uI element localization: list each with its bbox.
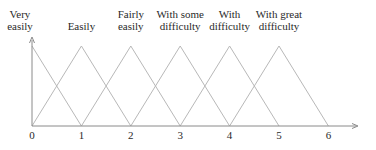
set-label-line2: easily [118,20,144,32]
set-label: Veryeasily [7,8,33,32]
membership-curves [32,46,328,126]
set-label: Easily [68,20,96,32]
set-label: With greatdifficulty [256,8,302,32]
set-label-line2: Easily [68,20,96,32]
set-label-line2: easily [7,20,33,32]
set-label: Fairlyeasily [118,8,144,32]
set-label-line1: Fairly [118,8,144,20]
set-label-line2: difficulty [209,20,250,32]
x-tick-label: 0 [29,129,35,141]
set-label: With somedifficulty [156,8,204,32]
x-tick-label: 3 [177,129,183,141]
x-tick-label: 4 [227,129,233,141]
membership-triangle [32,46,131,126]
set-label: Withdifficulty [209,8,250,32]
membership-triangle [131,46,230,126]
set-label-line1: With some [156,8,204,20]
membership-triangle [230,46,329,126]
set-label-line2: difficulty [156,20,204,32]
x-tick-label: 2 [128,129,134,141]
set-label-line1: With [209,8,250,20]
set-label-line2: difficulty [256,20,302,32]
membership-triangle [180,46,279,126]
membership-triangle [81,46,180,126]
set-label-line1: With great [256,8,302,20]
x-tick-label: 6 [326,129,332,141]
x-tick-label: 1 [79,129,85,141]
x-tick-label: 5 [276,129,282,141]
set-label-line1: Very [7,8,33,20]
